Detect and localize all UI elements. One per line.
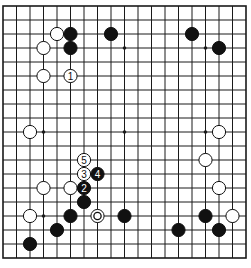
white-stone <box>91 209 104 222</box>
white-stone <box>226 209 239 222</box>
white-stone: 1 <box>64 69 77 82</box>
black-stone: 4 <box>91 167 104 180</box>
black-stone <box>199 209 212 222</box>
black-stone <box>212 41 225 54</box>
white-stone <box>37 181 50 194</box>
white-stone: 5 <box>77 153 90 166</box>
move-number-label: 3 <box>81 169 87 180</box>
star-point <box>204 46 208 50</box>
move-number-label: 2 <box>81 183 87 194</box>
black-stone <box>212 223 225 236</box>
star-point <box>123 46 127 50</box>
go-board-svg: 15342 <box>0 0 251 268</box>
black-stone <box>77 195 90 208</box>
white-stone <box>212 125 225 138</box>
move-number-label: 1 <box>68 71 74 82</box>
black-stone <box>172 223 185 236</box>
white-stone <box>37 41 50 54</box>
black-stone <box>185 27 198 40</box>
move-number-label: 5 <box>81 155 87 166</box>
black-stone: 2 <box>77 181 90 194</box>
black-stone <box>64 209 77 222</box>
black-stone <box>50 223 63 236</box>
black-stone <box>64 41 77 54</box>
white-stone <box>212 181 225 194</box>
white-stone <box>64 181 77 194</box>
white-stone <box>23 209 36 222</box>
white-stone: 3 <box>77 167 90 180</box>
black-stone <box>118 209 131 222</box>
white-stone <box>50 27 63 40</box>
go-board: 15342 <box>0 0 251 268</box>
star-point <box>123 130 127 134</box>
star-point <box>42 214 46 218</box>
white-stone <box>199 153 212 166</box>
white-stone <box>37 69 50 82</box>
star-point <box>204 130 208 134</box>
white-stone <box>23 125 36 138</box>
stones-layer: 15342 <box>23 27 239 250</box>
black-stone <box>23 237 36 250</box>
star-point <box>42 130 46 134</box>
black-stone <box>104 27 117 40</box>
move-number-label: 4 <box>95 169 101 180</box>
black-stone <box>64 27 77 40</box>
